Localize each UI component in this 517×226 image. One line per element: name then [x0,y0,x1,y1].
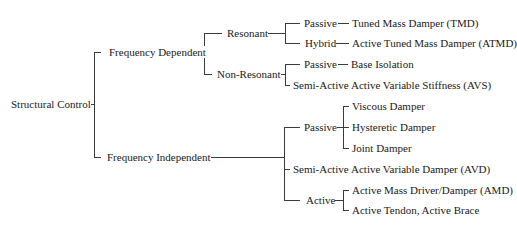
node-resonant-hybrid: Hybrid [305,37,336,49]
node-independent-active: Active [306,194,335,206]
leaf-active-variable-damper: Active Variable Damper (AVD) [351,163,490,175]
node-independent-passive: Passive [304,121,337,133]
leaf-viscous-damper: Viscous Damper [352,100,425,112]
leaf-base-isolation: Base Isolation [351,58,414,70]
node-resonant-passive: Passive [304,17,337,29]
node-frequency-dependent: Frequency Dependent [109,46,206,58]
node-non-resonant: Non-Resonant [217,68,281,80]
node-nonresonant-passive: Passive [304,58,337,70]
node-nonresonant-semi-active: Semi-Active [293,79,349,91]
leaf-active-tuned-mass-damper: Active Tuned Mass Damper (ATMD) [352,37,517,49]
leaf-active-variable-stiffness: Active Variable Stiffness (AVS) [351,79,491,91]
leaf-tuned-mass-damper: Tuned Mass Damper (TMD) [352,17,478,29]
leaf-active-tendon-brace: Active Tendon, Active Brace [352,204,479,216]
node-resonant: Resonant [227,27,268,39]
leaf-active-mass-driver: Active Mass Driver/Damper (AMD) [352,184,513,196]
leaf-joint-damper: Joint Damper [352,142,412,154]
node-structural-control: Structural Control [11,98,91,110]
node-independent-semi-active: Semi-Active [293,163,349,175]
leaf-hysteretic-damper: Hysteretic Damper [352,121,435,133]
node-frequency-independent: Frequency Independent [107,151,211,163]
